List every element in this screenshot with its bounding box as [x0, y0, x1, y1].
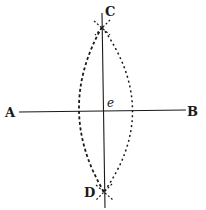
segment-ab — [19, 110, 186, 112]
label-d: D — [84, 185, 95, 200]
perpendicular-bisector-diagram: A B C D e — [0, 0, 206, 210]
arc-left — [79, 27, 104, 192]
label-b: B — [187, 104, 198, 119]
label-a: A — [4, 105, 16, 120]
arc-mark-d-2 — [96, 184, 112, 200]
label-c: C — [105, 4, 115, 19]
label-e: e — [107, 96, 114, 110]
